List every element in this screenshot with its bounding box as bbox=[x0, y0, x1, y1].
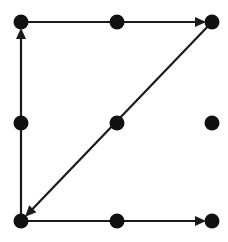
graph-node-top-left[interactable] bbox=[14, 15, 29, 30]
graph-diagram bbox=[0, 0, 228, 242]
graph-node-top-center[interactable] bbox=[110, 15, 125, 30]
graph-canvas bbox=[0, 0, 228, 242]
graph-node-top-right[interactable] bbox=[205, 15, 220, 30]
graph-node-middle-center[interactable] bbox=[110, 116, 125, 131]
graph-node-bottom-left[interactable] bbox=[14, 214, 29, 229]
graph-node-middle-left[interactable] bbox=[14, 116, 29, 131]
graph-node-bottom-right[interactable] bbox=[205, 214, 220, 229]
graph-node-bottom-center[interactable] bbox=[110, 214, 125, 229]
graph-node-middle-right[interactable] bbox=[205, 116, 220, 131]
